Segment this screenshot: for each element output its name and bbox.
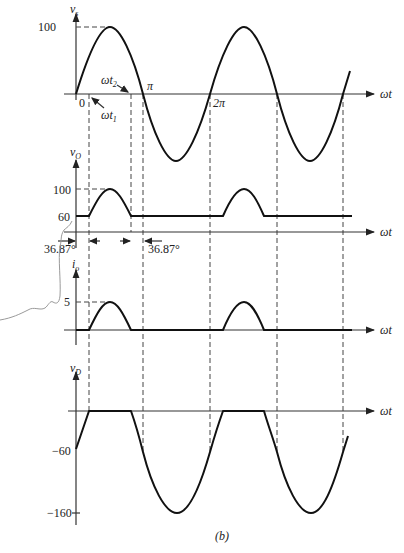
io-x-label: ωt <box>380 323 392 337</box>
vo-tick-100: 100 <box>53 183 71 197</box>
panel-vo: vO 100 60 ωt 36.87° 36.87° <box>44 145 392 256</box>
vs-tick-0: 0 <box>79 96 85 110</box>
vd-waveform <box>76 411 348 513</box>
vd-tick-neg60: −60 <box>52 444 71 458</box>
vd-tick-neg160: −160 <box>47 506 72 520</box>
waveform-diagram: vs 100 0 ωt1 ωt2 π 2π ωt vO 100 60 ωt 36… <box>0 0 404 553</box>
panel-vs: vs 100 0 ωt1 ωt2 π 2π ωt <box>38 2 392 161</box>
panel-vd: vD −60 −160 ωt <box>47 361 392 525</box>
angle-right-label: 36.87° <box>148 242 180 256</box>
pi-label: π <box>147 79 154 93</box>
io-y-label: io <box>72 257 79 273</box>
vo-y-label: vO <box>70 145 81 161</box>
wt1-arrow <box>92 98 104 108</box>
dashed-guide-lines <box>89 94 343 452</box>
io-tick-5: 5 <box>64 295 70 309</box>
figure-caption: (b) <box>215 529 229 543</box>
wt1-label: ωt1 <box>101 108 117 124</box>
vd-y-label: vD <box>70 361 81 377</box>
wt2-arrow <box>117 85 128 92</box>
io-waveform <box>76 302 352 330</box>
vs-tick-100: 100 <box>38 20 56 34</box>
vo-tick-60: 60 <box>58 210 70 224</box>
wt2-label: ωt2 <box>101 73 117 89</box>
vs-x-label: ωt <box>380 87 392 101</box>
vd-x-label: ωt <box>380 404 392 418</box>
two-pi-label: 2π <box>213 96 226 110</box>
vs-y-label: vs <box>70 2 78 18</box>
vo-waveform <box>76 189 352 216</box>
handwritten-scribble <box>0 221 72 320</box>
vo-x-label: ωt <box>380 225 392 239</box>
